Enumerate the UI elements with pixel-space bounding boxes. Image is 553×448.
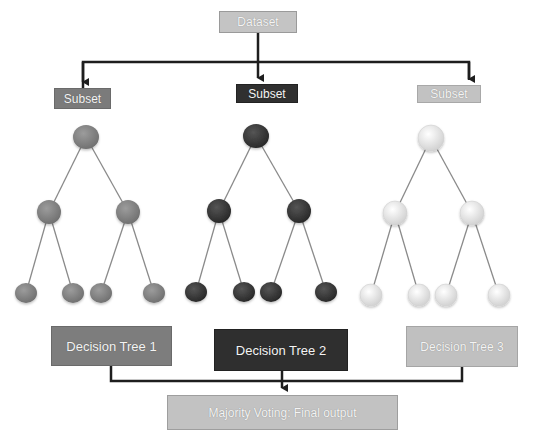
tree-1-node bbox=[37, 200, 61, 224]
subset-label: Subset bbox=[64, 92, 101, 106]
subset-label: Subset bbox=[248, 87, 285, 101]
decision-tree-label: Decision Tree 3 bbox=[420, 340, 503, 354]
tree-2-leaf bbox=[185, 282, 207, 302]
decision-tree-2-box: Decision Tree 2 bbox=[214, 329, 348, 371]
tree-2-leaf bbox=[233, 282, 255, 302]
decision-tree-label: Decision Tree 1 bbox=[66, 339, 156, 354]
tree-2-leaf bbox=[315, 282, 337, 302]
tree-1-root-node bbox=[73, 125, 99, 149]
subset-box-2: Subset bbox=[236, 84, 298, 103]
tree-2-nodes bbox=[185, 124, 337, 302]
tree-1-leaf bbox=[15, 283, 37, 303]
tree-3-leaf bbox=[360, 284, 382, 306]
subset-label: Subset bbox=[430, 87, 467, 101]
tree-3-node bbox=[383, 201, 407, 225]
dataset-box: Dataset bbox=[219, 11, 297, 33]
tree-3-root-node bbox=[418, 125, 444, 151]
subset-box-1: Subset bbox=[54, 88, 111, 109]
decision-tree-label: Decision Tree 2 bbox=[236, 343, 326, 358]
dataset-connectors bbox=[83, 33, 469, 88]
tree-3-leaf bbox=[435, 284, 457, 306]
tree-2-node bbox=[287, 199, 311, 223]
tree-1-nodes bbox=[15, 125, 165, 303]
majority-voting-box: Majority Voting: Final output bbox=[167, 395, 398, 430]
tree-1-leaf bbox=[90, 283, 112, 303]
tree-1-leaf bbox=[62, 283, 84, 303]
tree-edges bbox=[26, 136, 499, 295]
tree-3-nodes bbox=[360, 125, 510, 306]
random-forest-diagram bbox=[0, 0, 553, 448]
tree-1-node bbox=[116, 200, 140, 224]
decision-tree-1-box: Decision Tree 1 bbox=[51, 326, 172, 366]
decision-tree-3-box: Decision Tree 3 bbox=[406, 326, 518, 367]
tree-3-leaf bbox=[408, 284, 430, 306]
tree-2-node bbox=[207, 199, 231, 223]
subset-box-3: Subset bbox=[417, 85, 481, 103]
tree-3-node bbox=[460, 201, 484, 225]
tree-1-leaf bbox=[143, 283, 165, 303]
tree-3-leaf bbox=[488, 284, 510, 306]
majority-voting-label: Majority Voting: Final output bbox=[208, 406, 356, 420]
tree-2-leaf bbox=[260, 282, 282, 302]
tree-2-root-node bbox=[243, 124, 269, 148]
dataset-label: Dataset bbox=[237, 15, 278, 29]
